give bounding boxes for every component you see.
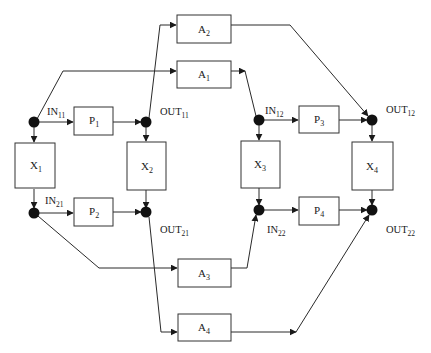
box-x4: X4 [352, 142, 393, 190]
edge-a3-in22 [231, 215, 256, 268]
node-out12 [367, 115, 378, 126]
node-in21 [29, 208, 40, 219]
box-p1: P1 [74, 107, 113, 135]
box-p3: P3 [299, 106, 339, 133]
node-out22 [367, 205, 378, 216]
node-in12 [254, 115, 265, 126]
edge-a4-out22-tail [296, 215, 369, 332]
box-a1: A1 [177, 61, 231, 88]
label-in22: IN22 [267, 224, 286, 238]
box-x2: X2 [127, 142, 166, 190]
box-p2: P2 [74, 198, 113, 226]
label-in21: IN21 [45, 195, 64, 209]
node-in22 [254, 205, 265, 216]
box-a2: A2 [177, 15, 231, 43]
label-out11: OUT11 [160, 106, 189, 120]
box-a4: A4 [178, 314, 231, 341]
box-a3: A3 [178, 259, 231, 287]
edge-a1-in12-tail [245, 71, 256, 116]
label-out22: OUT22 [386, 224, 415, 238]
node-in11 [29, 117, 40, 128]
node-out21 [141, 207, 152, 218]
edge-a2-out12 [231, 25, 368, 116]
label-out12: OUT12 [386, 104, 415, 118]
box-x1: X1 [15, 143, 55, 188]
label-in12: IN12 [265, 105, 284, 119]
box-p4: P4 [299, 197, 339, 225]
label-out21: OUT21 [160, 224, 189, 238]
label-in11: IN11 [47, 106, 66, 120]
flow-diagram: A2 A1 A3 A4 P1 P2 P3 P4 X1 X2 X3 [0, 0, 431, 353]
box-x3: X3 [241, 141, 280, 188]
node-out11 [141, 117, 152, 128]
